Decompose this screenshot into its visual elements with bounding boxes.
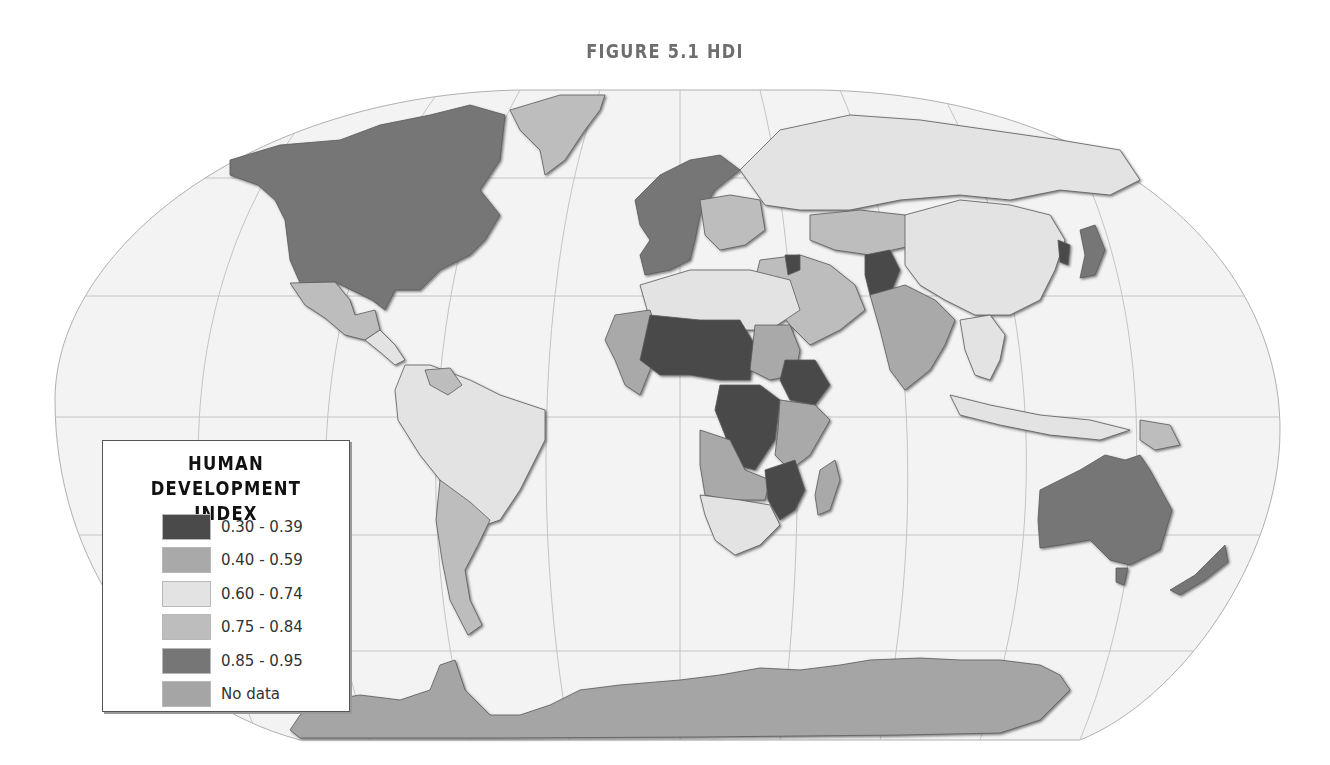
legend-item: 0.60 - 0.74 [162, 577, 303, 611]
legend-items: 0.30 - 0.39 0.40 - 0.59 0.60 - 0.74 0.75… [162, 510, 303, 711]
legend-label: 0.75 - 0.84 [221, 618, 303, 636]
legend-swatch [162, 681, 211, 707]
region-sahel [640, 315, 755, 380]
legend-title-line1: HUMAN DEVELOPMENT [125, 451, 327, 501]
legend-label: No data [221, 685, 280, 703]
legend-item: 0.30 - 0.39 [162, 510, 303, 544]
legend-item: 0.75 - 0.84 [162, 611, 303, 645]
legend-swatch [162, 648, 211, 674]
legend-item: 0.85 - 0.95 [162, 644, 303, 678]
legend-label: 0.30 - 0.39 [221, 518, 303, 536]
legend-swatch [162, 614, 211, 640]
legend: HUMAN DEVELOPMENT INDEX 0.30 - 0.39 0.40… [102, 440, 350, 712]
legend-label: 0.40 - 0.59 [221, 551, 303, 569]
legend-swatch [162, 514, 211, 540]
legend-item: No data [162, 678, 303, 712]
legend-label: 0.85 - 0.95 [221, 652, 303, 670]
legend-swatch [162, 547, 211, 573]
legend-swatch [162, 581, 211, 607]
legend-item: 0.40 - 0.59 [162, 544, 303, 578]
legend-label: 0.60 - 0.74 [221, 585, 303, 603]
